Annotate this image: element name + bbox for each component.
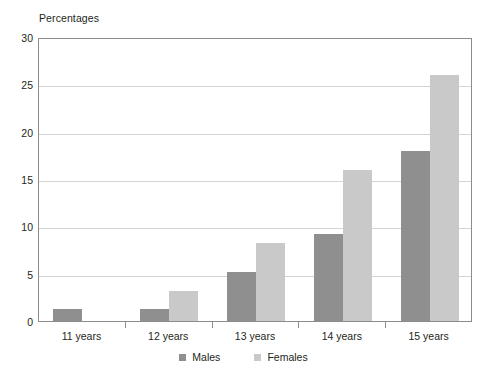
bar-females — [256, 243, 285, 321]
legend-swatch-females — [254, 354, 261, 361]
bar-females — [430, 75, 459, 321]
bar-males — [140, 309, 169, 321]
x-axis-tick — [125, 322, 126, 328]
bar-males — [53, 309, 82, 321]
bar-males — [314, 234, 343, 321]
bar-group — [39, 39, 126, 321]
x-axis-tick — [298, 322, 299, 328]
y-axis-tick-label: 0 — [3, 316, 33, 328]
bar-group — [126, 39, 213, 321]
chart-axis-title: Percentages — [39, 12, 99, 24]
chart-legend: MalesFemales — [0, 351, 487, 363]
legend-item: Males — [179, 351, 220, 363]
bar-group — [386, 39, 473, 321]
bar-females — [343, 170, 372, 321]
y-axis: 051015202530 — [0, 38, 33, 322]
x-axis-tick-label: 13 years — [235, 330, 275, 342]
bar-group — [213, 39, 300, 321]
bar-chart: Percentages 051015202530 11 years12 year… — [0, 0, 487, 375]
x-axis: 11 years12 years13 years14 years15 years — [38, 330, 472, 346]
x-axis-ticks — [38, 322, 472, 329]
x-axis-tick — [212, 322, 213, 328]
bar-females — [169, 291, 198, 321]
y-axis-tick-label: 10 — [3, 221, 33, 233]
y-axis-tick-label: 15 — [3, 174, 33, 186]
x-axis-tick-label: 14 years — [322, 330, 362, 342]
legend-label: Females — [267, 351, 307, 363]
x-axis-tick-label: 11 years — [62, 330, 102, 342]
legend-item: Females — [254, 351, 307, 363]
y-axis-tick-label: 20 — [3, 127, 33, 139]
y-axis-tick-label: 5 — [3, 269, 33, 281]
legend-label: Males — [192, 351, 220, 363]
legend-swatch-males — [179, 354, 186, 361]
plot-area — [38, 38, 472, 322]
bar-males — [227, 272, 256, 321]
y-axis-tick-label: 30 — [3, 32, 33, 44]
bar-males — [401, 151, 430, 321]
x-axis-tick — [385, 322, 386, 328]
y-axis-tick-label: 25 — [3, 79, 33, 91]
bars-layer — [39, 39, 471, 321]
bar-group — [299, 39, 386, 321]
x-axis-tick-label: 12 years — [148, 330, 188, 342]
x-axis-tick-label: 15 years — [408, 330, 448, 342]
